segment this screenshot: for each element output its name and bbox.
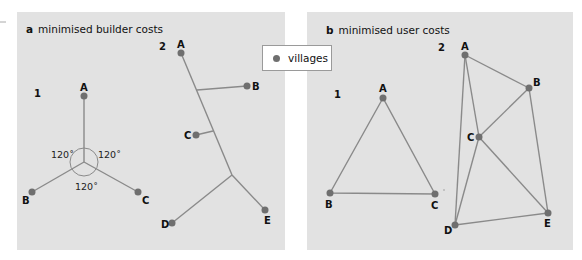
subfigure-number: 1 [34,88,41,99]
village-node [135,189,142,196]
node-label: A [379,83,387,94]
panel-a: aminimised builder costs 1 A B C 120˚ 12… [17,12,285,250]
village-node [178,50,185,57]
node-label: C [467,132,474,143]
village-node [452,222,459,229]
subfigure-number: 2 [438,42,445,53]
node-label: D [161,219,169,230]
village-node [432,191,439,198]
stray-dot [443,189,445,191]
village-node [476,134,483,141]
village-marker-icon [273,55,280,62]
angle-label: 120˚ [75,181,98,192]
node-label: B [533,77,541,88]
subfigure-number: 2 [159,41,166,52]
legend: villages [262,45,332,71]
node-label: B [252,81,260,92]
village-node [545,210,552,217]
node-label: C [142,195,149,206]
node-label: A [177,39,185,50]
village-node [462,52,469,59]
panel-a-background [17,12,285,250]
diagram-canvas: aminimised builder costs 1 A B C 120˚ 12… [0,0,582,260]
angle-label: 120˚ [51,149,74,160]
node-label: E [544,218,551,229]
node-label: A [80,82,88,93]
panel-b-title: bminimised user costs [326,24,450,36]
legend-label: villages [288,52,328,64]
node-label: B [22,195,30,206]
node-label: C [431,200,438,211]
village-node [380,95,387,102]
village-node [526,85,533,92]
node-label: B [325,199,333,210]
node-label: E [264,215,271,226]
node-label: D [444,225,452,236]
village-node [193,132,200,139]
panel-a-title: aminimised builder costs [26,23,163,35]
angle-label: 120˚ [98,149,121,160]
node-label: A [461,41,469,52]
panel-b: bminimised user costs 1 A B C 2 [307,12,573,250]
subfigure-number: 1 [334,89,341,100]
node-label: C [184,130,191,141]
village-node [244,83,251,90]
village-node [169,220,176,227]
village-node [81,93,88,100]
village-node [327,190,334,197]
village-node [262,207,269,214]
